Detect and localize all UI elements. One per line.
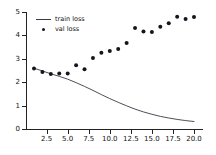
val-loss-point xyxy=(150,30,154,34)
x-tick-label: 5.0 xyxy=(62,135,73,143)
legend-label-train-loss: train loss xyxy=(55,15,85,24)
val-loss-point xyxy=(99,51,103,55)
legend-item-train-loss: train loss xyxy=(35,15,85,24)
x-tick-mark xyxy=(194,130,195,134)
x-tick-label: 7.5 xyxy=(83,135,94,143)
x-tick-mark xyxy=(131,130,132,134)
y-tick-mark xyxy=(22,129,26,130)
y-tick-label: 4 xyxy=(8,31,20,39)
val-loss-point xyxy=(91,56,95,60)
x-tick-mark xyxy=(68,130,69,134)
dot-marker-icon xyxy=(35,25,52,34)
val-loss-point xyxy=(108,49,112,53)
val-loss-point xyxy=(74,63,78,67)
val-loss-point xyxy=(32,66,36,70)
val-loss-point xyxy=(116,47,120,51)
y-tick-mark xyxy=(22,12,26,13)
x-tick-mark xyxy=(47,130,48,134)
matplotlib-figure: 012345 2.55.07.510.012.515.017.520.0 tra… xyxy=(0,0,216,155)
val-loss-point xyxy=(184,17,188,21)
x-tick-label: 10.0 xyxy=(102,135,118,143)
line-swatch-icon xyxy=(35,15,52,24)
y-tick-mark xyxy=(22,59,26,60)
x-axis-spine xyxy=(26,129,203,130)
y-tick-label: 5 xyxy=(8,8,20,16)
y-tick-label: 1 xyxy=(8,102,20,110)
legend-item-val-loss: val loss xyxy=(35,25,85,34)
y-axis-spine xyxy=(26,12,27,130)
x-tick-mark xyxy=(89,130,90,134)
val-loss-point xyxy=(83,67,87,71)
val-loss-point xyxy=(167,21,171,25)
val-loss-point xyxy=(40,70,44,74)
x-tick-label: 12.5 xyxy=(123,135,139,143)
val-loss-point xyxy=(66,72,70,76)
x-tick-label: 2.5 xyxy=(41,135,52,143)
val-loss-point xyxy=(141,29,145,33)
val-loss-point xyxy=(192,15,196,19)
x-tick-mark xyxy=(110,130,111,134)
train-loss-line xyxy=(34,68,194,121)
x-tick-label: 15.0 xyxy=(144,135,160,143)
y-tick-label: 2 xyxy=(8,78,20,86)
val-loss-point xyxy=(158,25,162,29)
y-tick-mark xyxy=(22,82,26,83)
x-tick-label: 20.0 xyxy=(186,135,202,143)
chart-legend: train loss val loss xyxy=(33,13,88,37)
x-tick-label: 17.5 xyxy=(165,135,181,143)
val-loss-point xyxy=(125,41,129,45)
y-tick-mark xyxy=(22,35,26,36)
val-loss-point xyxy=(175,15,179,19)
x-tick-mark xyxy=(152,130,153,134)
y-tick-mark xyxy=(22,106,26,107)
y-tick-label: 0 xyxy=(8,125,20,133)
legend-label-val-loss: val loss xyxy=(55,25,79,34)
val-loss-point xyxy=(133,26,137,30)
y-tick-label: 3 xyxy=(8,55,20,63)
x-tick-mark xyxy=(173,130,174,134)
val-loss-point xyxy=(57,72,61,76)
val-loss-point xyxy=(49,72,53,76)
